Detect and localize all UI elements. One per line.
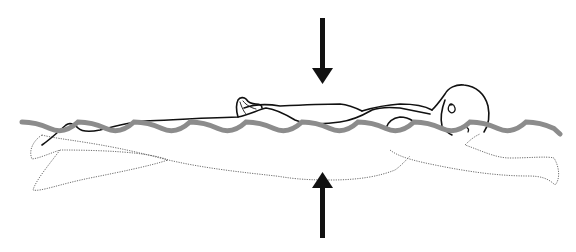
infant-ear [448,104,455,113]
down-arrow-icon [312,18,333,84]
up-arrow-icon [312,172,333,238]
wavy-surface-line [22,122,560,134]
pressure-diagram [0,0,576,252]
submerged-body-outline [31,134,559,190]
infant-figure [42,85,489,145]
illustration [0,0,576,252]
